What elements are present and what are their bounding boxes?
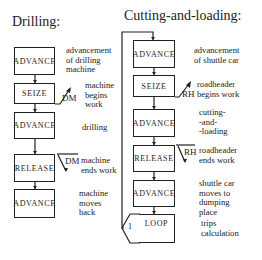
- drilling-machine-resource-label: DM: [62, 93, 77, 103]
- drilling-release-block: RELEASE: [14, 154, 55, 182]
- roadheader-resource-label: RH: [182, 89, 195, 99]
- drilling-description: machine begins work: [85, 81, 114, 110]
- drilling-advance-block: ADVANCE: [14, 189, 55, 218]
- drilling-description: drilling: [82, 123, 107, 133]
- cutting-description: shuttle car moves to dumping place: [199, 179, 235, 217]
- cutting-description: cutting- -and- -loading: [199, 108, 228, 137]
- drilling-title: Drilling:: [12, 14, 60, 30]
- cutting-advance-block: ADVANCE: [133, 180, 175, 207]
- cutting-loop-block: LOOP: [139, 214, 175, 243]
- cutting-advance-block: ADVANCE: [133, 109, 175, 137]
- drilling-seize-block: SEIZE: [14, 83, 55, 104]
- cutting-description: trips calculation: [201, 219, 239, 238]
- drilling-description: advancement of drilling machine: [66, 46, 111, 75]
- cutting-seize-block: SEIZE: [133, 75, 175, 97]
- drilling-advance-block: ADVANCE: [14, 47, 55, 75]
- cutting-description: roadheader ends work: [199, 146, 237, 165]
- cutting-description: roadheader begins work: [197, 80, 239, 99]
- cutting-release-block: RELEASE: [133, 145, 175, 172]
- drilling-machine-resource-label: DM: [65, 156, 80, 166]
- cutting-advance-block: ADVANCE: [133, 40, 175, 68]
- cutting-title: Cutting-and-loading:: [124, 8, 241, 24]
- drilling-description: machine ends work: [81, 156, 117, 175]
- cutting-description: advancement of shuttle car: [194, 46, 239, 65]
- drilling-advance-block: ADVANCE: [14, 112, 55, 139]
- drilling-description: machine moves back: [79, 189, 108, 218]
- roadheader-resource-label: RH: [184, 147, 197, 157]
- gpss-block-diagram: Drilling: Cutting-and-loading: ADVANCE S…: [0, 0, 262, 260]
- loop-count-label: 1: [128, 222, 132, 231]
